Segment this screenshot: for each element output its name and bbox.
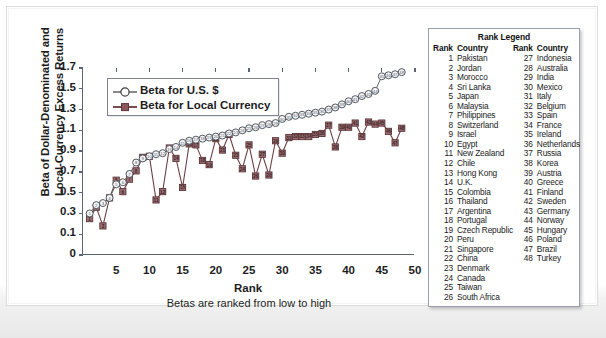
svg-text:32: 32 — [293, 134, 299, 139]
svg-text:12: 12 — [160, 190, 166, 195]
svg-text:31: 31 — [286, 115, 291, 120]
svg-text:47: 47 — [393, 72, 398, 77]
svg-text:20: 20 — [213, 134, 218, 139]
svg-text:43: 43 — [366, 92, 371, 97]
svg-text:6: 6 — [122, 190, 125, 195]
rank-legend-row: 26South Africa — [433, 293, 580, 303]
svg-text:23: 23 — [233, 153, 239, 158]
x-tick-mark — [348, 68, 349, 72]
svg-text:22: 22 — [227, 131, 232, 136]
svg-text:27: 27 — [260, 123, 265, 128]
svg-text:16: 16 — [187, 138, 192, 143]
country-name-left: South Africa — [457, 293, 513, 303]
svg-text:37: 37 — [326, 107, 331, 112]
svg-text:39: 39 — [339, 125, 345, 130]
x-tick-mark — [381, 68, 382, 72]
legend-label-usd: Beta for U.S. $ — [138, 84, 219, 96]
svg-text:18: 18 — [200, 136, 205, 141]
y-tick-label: 0.3 — [32, 205, 82, 217]
x-tick-mark — [248, 68, 249, 72]
rank-number-left: 1 — [433, 54, 457, 64]
svg-text:18: 18 — [200, 158, 206, 163]
svg-text:47: 47 — [393, 141, 399, 146]
rank-number-left: 6 — [433, 102, 457, 112]
svg-text:36: 36 — [319, 131, 325, 136]
y-tick-mark — [79, 109, 83, 110]
svg-text:21: 21 — [220, 133, 225, 138]
x-axis-label: Rank — [82, 282, 414, 294]
x-tick-mark — [315, 68, 316, 72]
y-tick-mark — [79, 192, 83, 193]
country-name-right — [537, 293, 580, 303]
svg-text:28: 28 — [267, 122, 272, 127]
svg-text:11: 11 — [154, 152, 159, 157]
svg-text:46: 46 — [386, 129, 392, 134]
svg-text:48: 48 — [399, 126, 405, 131]
svg-text:12: 12 — [160, 151, 165, 156]
svg-text:14: 14 — [173, 156, 179, 161]
svg-text:40: 40 — [346, 99, 351, 104]
rank-legend-table: Rank Country Rank Country 1Pakistan27Ind… — [433, 43, 580, 302]
rank-number-left: 7 — [433, 111, 457, 121]
svg-text:26: 26 — [253, 174, 259, 179]
country-name-right — [537, 283, 580, 293]
svg-text:30: 30 — [280, 117, 285, 122]
rank-legend-title: Rank Legend — [433, 32, 575, 43]
y-tick-label: 0.1 — [32, 226, 82, 238]
svg-text:43: 43 — [366, 120, 372, 125]
series-local-currency: 1234567891011121314151617181920212223242… — [87, 119, 405, 229]
svg-text:28: 28 — [266, 173, 272, 178]
svg-text:41: 41 — [353, 97, 358, 102]
svg-text:11: 11 — [154, 198, 159, 203]
country-name-right: Turkey — [537, 254, 580, 264]
header-rank-left: Rank — [433, 43, 457, 54]
svg-text:42: 42 — [359, 134, 365, 139]
plot-area: 1234567891011121314151617181920212223242… — [82, 68, 414, 255]
svg-text:25: 25 — [247, 126, 252, 131]
svg-text:33: 33 — [300, 134, 306, 139]
rank-legend-row: 2Jordan28Australia — [433, 64, 580, 74]
svg-text:21: 21 — [220, 148, 226, 153]
country-name-right — [537, 264, 580, 274]
y-tick-label: 0 — [32, 247, 82, 259]
filled-square-icon — [112, 99, 138, 111]
svg-text:41: 41 — [353, 121, 359, 126]
rank-legend-row: 20Peru46Poland — [433, 235, 580, 245]
rank-number-left: 3 — [433, 73, 457, 83]
rank-number-right — [513, 274, 537, 284]
svg-text:44: 44 — [373, 89, 378, 94]
svg-text:8: 8 — [135, 169, 138, 174]
series-legend-box: Beta for U.S. $ Beta for Local Currency — [107, 78, 279, 116]
svg-text:15: 15 — [180, 141, 185, 146]
svg-text:14: 14 — [174, 145, 179, 150]
x-tick-mark — [182, 68, 183, 72]
rank-number-left: 5 — [433, 92, 457, 102]
y-tick-label: 0.9 — [32, 143, 82, 155]
svg-text:30: 30 — [280, 151, 286, 156]
svg-text:19: 19 — [207, 135, 212, 140]
figure-page: Beta of Dollar-Denominated and Local-Cur… — [0, 0, 606, 338]
svg-text:23: 23 — [233, 130, 238, 135]
rank-legend-panel: Rank Legend Rank Country Rank Country 1P… — [428, 28, 580, 307]
svg-text:33: 33 — [300, 112, 305, 117]
svg-text:32: 32 — [293, 113, 298, 118]
y-tick-mark — [79, 130, 83, 131]
svg-text:45: 45 — [379, 121, 385, 126]
svg-text:27: 27 — [260, 152, 266, 157]
rank-legend-row: 6Malaysia32Belgium — [433, 102, 580, 112]
svg-text:44: 44 — [373, 122, 379, 127]
svg-text:39: 39 — [340, 102, 345, 107]
y-tick-mark — [79, 234, 83, 235]
svg-text:29: 29 — [273, 121, 278, 126]
y-tick-label: 1.7 — [32, 60, 82, 72]
svg-text:38: 38 — [333, 105, 338, 110]
svg-text:48: 48 — [399, 70, 404, 75]
svg-text:17: 17 — [193, 137, 198, 142]
svg-text:26: 26 — [253, 125, 258, 130]
legend-label-local: Beta for Local Currency — [138, 99, 270, 111]
rank-legend-row: 23Denmark — [433, 264, 580, 274]
rank-number-right — [513, 293, 537, 303]
svg-text:34: 34 — [306, 111, 311, 116]
svg-text:10: 10 — [147, 154, 152, 159]
rank-legend-row: 4Sri Lanka30Mexico — [433, 83, 580, 93]
